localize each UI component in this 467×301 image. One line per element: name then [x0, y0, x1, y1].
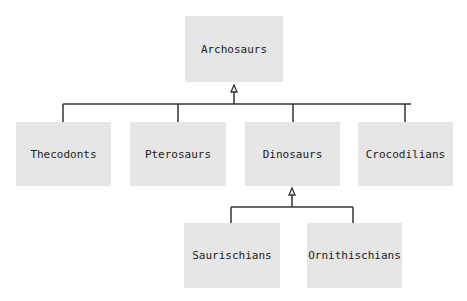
node-ornithischians: Ornithischians: [307, 223, 402, 288]
arrow-head-icon: [289, 188, 295, 195]
node-label: Saurischians: [192, 249, 271, 262]
node-label: Thecodonts: [30, 148, 96, 161]
node-saurischians: Saurischians: [184, 223, 280, 288]
node-label: Pterosaurs: [145, 148, 211, 161]
node-archosaurs: Archosaurs: [185, 16, 283, 82]
node-label: Archosaurs: [201, 43, 267, 56]
node-dinosaurs: Dinosaurs: [245, 122, 340, 186]
node-label: Ornithischians: [308, 249, 401, 262]
node-thecodonts: Thecodonts: [16, 122, 111, 186]
arrow-head-icon: [231, 85, 237, 92]
node-label: Dinosaurs: [263, 148, 323, 161]
node-label: Crocodilians: [366, 148, 445, 161]
node-pterosaurs: Pterosaurs: [130, 122, 226, 186]
node-crocodilians: Crocodilians: [358, 122, 453, 186]
